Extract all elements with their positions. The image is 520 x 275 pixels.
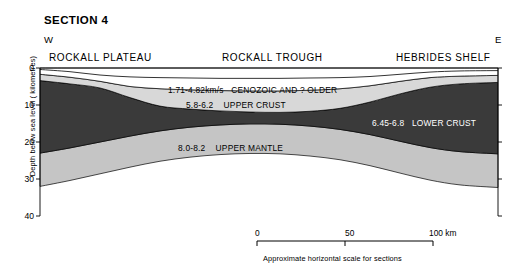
label-upper-crust-velocity: 5.8-6.2 bbox=[186, 100, 213, 110]
label-lower-crust: 6.45-6.8 LOWER CRUST bbox=[372, 118, 476, 128]
scale-tick-100: 100 km bbox=[429, 228, 456, 238]
label-cenozoic-velocity: 1.71-4.82km/s bbox=[168, 85, 224, 95]
label-upper-mantle-name: UPPER MANTLE bbox=[216, 143, 284, 153]
label-lower-crust-velocity: 6.45-6.8 bbox=[372, 118, 404, 128]
label-lower-crust-name: LOWER CRUST bbox=[412, 118, 476, 128]
scale-bar-group: 0 50 100 km Approximate horizontal scale… bbox=[255, 228, 505, 240]
label-upper-mantle: 8.0-8.2 UPPER MANTLE bbox=[178, 143, 283, 153]
label-cenozoic-name: CENOZOIC AND ? OLDER bbox=[231, 85, 337, 95]
label-cenozoic: 1.71-4.82km/s CENOZOIC AND ? OLDER bbox=[168, 85, 337, 95]
scale-tick-0: 0 bbox=[255, 228, 260, 238]
scale-bar bbox=[257, 241, 433, 246]
label-upper-crust-name: UPPER CRUST bbox=[224, 100, 286, 110]
scale-bar-caption: Approximate horizontal scale for section… bbox=[263, 254, 402, 263]
section-figure: SECTION 4 W E ROCKALL PLATEAU ROCKALL TR… bbox=[0, 0, 520, 275]
label-upper-crust: 5.8-6.2 UPPER CRUST bbox=[186, 100, 286, 110]
label-upper-mantle-velocity: 8.0-8.2 bbox=[178, 143, 205, 153]
scale-tick-50: 50 bbox=[345, 228, 354, 238]
